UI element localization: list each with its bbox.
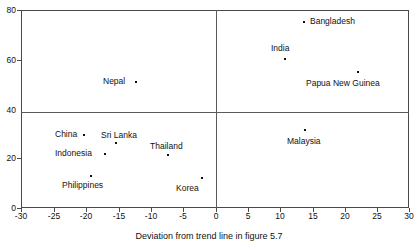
y-tick-label: 20 (0, 154, 16, 163)
x-tick-label: 15 (301, 212, 325, 221)
reference-line-horizontal-40 (21, 112, 409, 113)
point-label-indonesia: Indonesia (55, 149, 92, 158)
data-point-sri-lanka (115, 142, 117, 144)
plot-area (21, 10, 409, 208)
x-tick-label: 25 (365, 212, 389, 221)
point-label-india: India (271, 44, 289, 53)
y-tick-label: 60 (0, 56, 16, 65)
data-point-indonesia (104, 153, 106, 155)
x-tick-label: 30 (397, 212, 418, 221)
data-point-philippines (90, 175, 92, 177)
point-label-korea: Korea (176, 184, 199, 193)
x-tick-label: 0 (204, 212, 228, 221)
scatter-plot-figure: 80 60 40 20 0 Bangladesh India Papua New… (0, 0, 418, 250)
y-tick-label: 80 (0, 6, 16, 15)
top-caption (105, 0, 320, 3)
point-label-nepal: Nepal (103, 77, 125, 86)
x-tick-label: 5 (236, 212, 260, 221)
data-point-india (284, 58, 286, 60)
point-label-sri-lanka: Sri Lanka (101, 131, 137, 140)
data-point-korea (201, 177, 203, 179)
data-point-china (83, 134, 85, 136)
x-tick-label: -5 (171, 212, 195, 221)
x-tick-label: -15 (107, 212, 131, 221)
y-tick-label: 40 (0, 106, 16, 115)
point-label-malaysia: Malaysia (287, 137, 321, 146)
data-point-papua-new-guinea (357, 71, 359, 73)
data-point-nepal (135, 81, 137, 83)
data-point-thailand (167, 154, 169, 156)
x-tick-label: -10 (139, 212, 163, 221)
point-label-papua-new-guinea: Papua New Guinea (306, 79, 380, 88)
point-label-philippines: Philippines (62, 181, 103, 190)
point-label-china: China (55, 130, 77, 139)
point-label-thailand: Thailand (150, 142, 183, 151)
x-axis-title: Deviation from trend line in figure 5.7 (0, 231, 418, 241)
x-tick-label: 10 (268, 212, 292, 221)
point-label-bangladesh: Bangladesh (310, 17, 355, 26)
x-tick-label: -20 (74, 212, 98, 221)
x-tick-label: -30 (9, 212, 33, 221)
data-point-malaysia (304, 129, 306, 131)
reference-line-vertical-0 (216, 10, 217, 208)
x-tick-label: 20 (333, 212, 357, 221)
x-tick-label: -25 (42, 212, 66, 221)
data-point-bangladesh (303, 21, 305, 23)
